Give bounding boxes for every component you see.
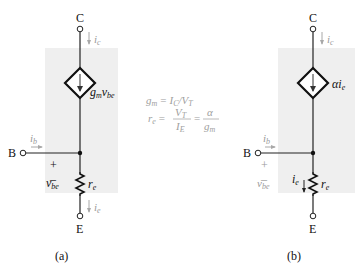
right-circuit: C E B ic ib ie αie re + vbe – (b) <box>243 11 355 263</box>
ic-arrowhead-right <box>320 40 324 45</box>
base-terminal-left <box>20 150 26 156</box>
base-label-left: B <box>8 146 16 160</box>
ic-label-right: ic <box>327 33 334 47</box>
gm-equation: gm=IC/VT <box>146 94 193 108</box>
collector-terminal-right <box>310 26 316 32</box>
frac1-numerator: VT <box>175 106 187 120</box>
ib-label-left: ib <box>30 132 37 146</box>
caption-a: (a) <box>55 249 68 263</box>
emitter-label-left: E <box>76 222 83 236</box>
frac1-denominator: IE <box>175 120 185 134</box>
ib-arrowhead-left <box>38 145 43 149</box>
emitter-terminal-right <box>310 213 316 219</box>
ib-label-right: ib <box>263 132 270 146</box>
left-circuit: C E B ic ib ie gmvbe re + vbe – (a) <box>8 11 118 263</box>
emitter-terminal-left <box>77 213 83 219</box>
caption-b: (b) <box>287 249 301 263</box>
ic-label-left: ic <box>94 33 101 47</box>
ie-arrowhead-left <box>87 208 91 213</box>
junction-dot-right <box>311 151 315 155</box>
equations: gm=IC/VT re= VT IE = α gm <box>146 94 219 134</box>
base-terminal-right <box>255 150 261 156</box>
ib-arrowhead-right <box>271 145 276 149</box>
equals-2: = <box>194 112 200 124</box>
base-label-right: B <box>243 146 251 160</box>
collector-label-right: C <box>309 11 317 25</box>
collector-label-left: C <box>76 11 84 25</box>
circuit-figure: C E B ic ib ie gmvbe re + vbe – (a) gm=I… <box>0 0 358 270</box>
frac2-numerator: α <box>207 106 213 118</box>
shaded-region-right <box>278 48 355 193</box>
re-lhs: re= <box>148 112 165 126</box>
plus-sign-left: + <box>50 158 57 172</box>
ic-arrowhead-left <box>87 40 91 45</box>
collector-terminal-left <box>77 26 83 32</box>
junction-dot-left <box>78 151 82 155</box>
minus-sign-right: – <box>260 172 268 186</box>
frac2-denominator: gm <box>204 120 216 134</box>
minus-sign-left-visible: – <box>49 172 57 186</box>
emitter-label-right: E <box>309 222 316 236</box>
ie-label-left: ie <box>94 201 101 215</box>
plus-sign-right: + <box>261 158 268 172</box>
